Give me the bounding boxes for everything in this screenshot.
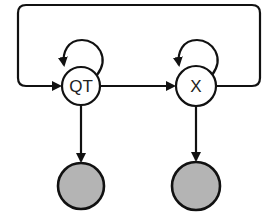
node-qt-label: QT — [69, 77, 93, 96]
graphical-model-diagram: QT X — [0, 0, 273, 216]
edge-x-to-qt-feedback — [18, 5, 260, 86]
node-x-label: X — [190, 77, 201, 96]
node-qt: QT — [62, 67, 100, 105]
node-x: X — [176, 66, 216, 106]
node-observed-x — [172, 162, 220, 210]
node-observed-qt — [58, 163, 104, 209]
